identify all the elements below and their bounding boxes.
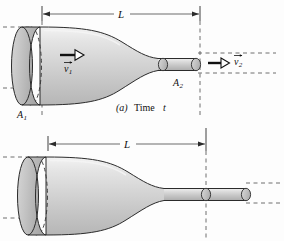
velocity-label-v2: v2 [234, 56, 243, 69]
figure-canvas: L [0, 0, 284, 241]
area-label-A2: A2 [172, 77, 184, 90]
dimension-label-L-top: L [117, 8, 124, 20]
caption-group-top: (a) Time t [116, 102, 166, 114]
outlet-ellipse-top [191, 58, 200, 70]
caption-symbol-t: t [163, 102, 166, 113]
area-label-A1: A1 [16, 109, 27, 122]
slug-ellipse-inner-bottom [201, 188, 210, 200]
area-ellipse-A2 [158, 58, 167, 70]
left-end-cap-top [12, 27, 42, 105]
left-end-cap-bottom [18, 157, 48, 235]
dimension-label-L-bottom: L [123, 138, 130, 150]
caption-paren-letter: (a) [116, 102, 128, 114]
outlet-ellipse-bottom [241, 188, 250, 200]
arrowhead-v2 [221, 58, 230, 68]
caption-word-time: Time [134, 102, 155, 113]
physics-figure: L [0, 0, 284, 241]
